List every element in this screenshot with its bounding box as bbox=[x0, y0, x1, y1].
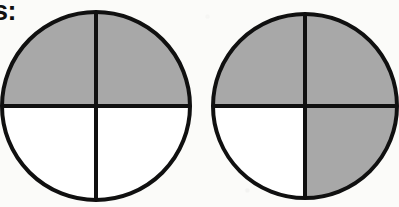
fraction-circle-1-svg bbox=[0, 8, 194, 204]
fraction-circle-2 bbox=[209, 10, 399, 202]
fraction-circle-2-svg bbox=[209, 10, 399, 202]
fraction-circle-1 bbox=[0, 8, 194, 204]
fraction-circles-figure: s: bbox=[0, 0, 399, 207]
